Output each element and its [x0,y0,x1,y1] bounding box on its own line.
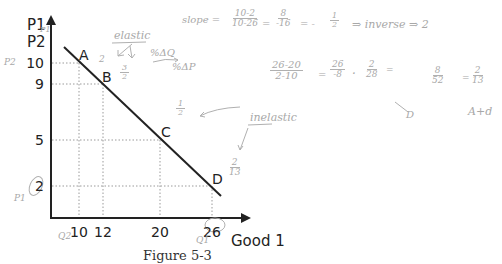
frac-den: 10-26 [232,19,258,28]
frac-den: 2 [332,21,337,29]
frac-den: 52 [432,76,443,85]
point-label-d: D [212,172,223,186]
note-cd-frac1: 26-20 2-10 [270,60,303,81]
y-axis-arrow-icon [46,15,56,25]
note-p1-mark: P1 [40,26,50,34]
y-tick-5: 5 [14,133,44,147]
frac-den: 13 [472,76,483,85]
note-q1-mark: Q1 [196,236,209,245]
note-elastic: elastic [114,30,150,41]
x-axis-arrow-icon [241,213,251,223]
note-inelastic: inelastic [250,112,297,123]
demand-line [64,47,221,196]
note-slope-label: slope = [182,15,220,25]
note-pct-q: %ΔQ [150,48,175,58]
note-slope-eq: = [262,19,270,29]
note-slope-frac1: 10-2 10-26 [232,9,258,28]
frac-den: 2-10 [275,71,297,81]
y-tick-9: 9 [14,77,44,91]
frac-den: 28 [366,70,377,79]
note-cd-frac5: 2 13 [472,66,483,85]
note-cd-eq2: = [386,66,394,75]
note-pct-p: %ΔP [172,62,195,72]
note-d-mark: D [406,110,414,120]
note-cd-frac3: 2 28 [366,60,377,79]
x-axis-label: Good 1 [231,234,285,249]
note-p1-circle: P1 [14,194,26,203]
handwritten-marks [26,42,408,232]
frac-den: -16 [276,19,291,28]
frac-den: 2 [178,109,183,117]
frac-den: 2 [122,73,127,81]
y-tick-2: 2 [14,179,44,193]
note-slope-half: 1 2 [330,12,339,29]
note-inelastic-frac-half: 1 2 [176,100,185,117]
note-cd-eq3: = [462,74,470,83]
note-elastic-frac: 3 2 [120,64,129,81]
figure-caption: Figure 5-3 [143,249,212,262]
frac-den: -8 [333,70,342,79]
y-axis-label-p2: P2 [27,35,46,50]
figure-canvas: P1 P2 10 9 5 2 10 12 20 26 Good 1 A B C … [0,0,502,264]
note-inelastic-frac: 2 13 [229,158,240,177]
note-cd-frac2: 26 -8 [330,60,345,79]
note-cd-eq1: = [318,70,326,80]
note-cd-frac4: 8 52 [432,66,443,85]
note-slope-frac2: 8 -16 [276,9,291,28]
note-elastic-2: 2 [99,55,105,64]
frac-den: 13 [229,168,240,177]
note-q2-mark: Q2 [58,232,71,241]
note-a-to-d: A+d [468,106,492,117]
gridlines [52,63,212,218]
point-label-b: B [102,70,112,84]
note-slope-result: = - [300,19,315,29]
note-cd-dot: · [352,68,356,80]
y-tick-10: 10 [14,56,44,70]
note-p2-mark: P2 [4,58,16,67]
point-label-a: A [79,48,89,62]
x-tick-12: 12 [91,225,115,239]
point-label-c: C [161,125,171,139]
note-inverse: ⇒ inverse ⇒ 2 [352,19,429,30]
x-tick-20: 20 [148,225,172,239]
